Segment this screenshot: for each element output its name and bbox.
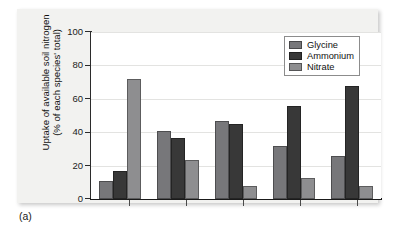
y-tick-label-0: 0 (57, 194, 83, 204)
x-tick-mark-1 (129, 200, 130, 206)
bar-group3-glycine (215, 121, 229, 200)
bar-group2-nitrate (185, 160, 199, 199)
legend-swatch-glycine (289, 41, 302, 49)
legend-item-nitrate: Nitrate (289, 62, 354, 72)
legend-label-ammonium: Ammonium (307, 51, 354, 61)
bar-group4-nitrate (301, 178, 315, 199)
chart-legend: Glycine Ammonium Nitrate (284, 36, 360, 76)
y-tick-label-40: 40 (57, 127, 83, 137)
y-tick-label-60: 60 (57, 94, 83, 104)
y-tick-label-80: 80 (57, 60, 83, 70)
bar-group4-ammonium (287, 106, 301, 200)
legend-swatch-ammonium (289, 52, 302, 60)
x-tick-mark-4 (300, 200, 301, 206)
chart-panel: Uptake of available soil nitrogen (% of … (17, 9, 378, 203)
x-tick-mark-3 (243, 200, 244, 206)
legend-swatch-nitrate (289, 63, 302, 71)
x-tick-mark-2 (186, 200, 187, 206)
y-tick-label-100: 100 (57, 27, 83, 37)
bar-group1-nitrate (127, 79, 141, 199)
bar-group2-ammonium (171, 138, 185, 199)
legend-label-nitrate: Nitrate (307, 62, 334, 72)
bar-group1-glycine (99, 181, 113, 199)
bar-group5-glycine (331, 156, 345, 199)
gridline-100 (91, 32, 381, 33)
bar-group5-nitrate (359, 186, 373, 199)
legend-label-glycine: Glycine (307, 40, 338, 50)
bar-group3-ammonium (229, 124, 243, 199)
legend-item-ammonium: Ammonium (289, 51, 354, 61)
bar-group4-glycine (273, 146, 287, 199)
y-tick-label-20: 20 (57, 161, 83, 171)
bar-group1-ammonium (113, 171, 127, 199)
bar-group2-glycine (157, 131, 171, 199)
legend-item-glycine: Glycine (289, 40, 354, 50)
bar-group5-ammonium (345, 86, 359, 199)
x-tick-mark-5 (357, 200, 358, 206)
bar-group3-nitrate (243, 186, 257, 199)
figure-container: Uptake of available soil nitrogen (% of … (0, 0, 394, 238)
figure-caption: (a) (19, 210, 32, 222)
y-axis-title-line1: Uptake of available soil nitrogen (40, 2, 51, 162)
